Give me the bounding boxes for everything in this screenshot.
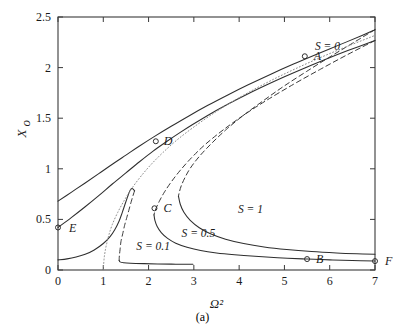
data-point-label: E (68, 221, 77, 235)
data-point-label: B (316, 252, 324, 266)
data-point-label: D (163, 134, 173, 148)
curve-label: S = 0 (315, 40, 340, 52)
chart-canvas: 01234567 00.511.522.5 ABCDEF S = 0.1S = … (0, 0, 405, 336)
curve-label: S = 1 (238, 203, 263, 215)
x-tick-label: 3 (191, 274, 197, 288)
data-point-label: F (384, 254, 393, 268)
x-tick-label: 1 (100, 274, 106, 288)
y-tick-label: 1 (45, 162, 51, 176)
figure-caption: (a) (0, 310, 405, 325)
y-axis-label-subscript: o (18, 120, 33, 127)
y-tick-label: 0.5 (36, 212, 51, 226)
x-axis-label: Ω² (210, 296, 224, 311)
figure-container: 01234567 00.511.522.5 ABCDEF S = 0.1S = … (0, 0, 405, 336)
y-tick-label: 0 (45, 263, 51, 277)
x-axis-title: Ω² (210, 296, 224, 311)
x-tick-label: 4 (236, 274, 242, 288)
y-tick-label: 2 (45, 61, 51, 75)
data-point-label: C (163, 201, 172, 215)
x-tick-label: 5 (281, 274, 287, 288)
x-tick-label: 0 (55, 274, 61, 288)
x-tick-label: 6 (327, 274, 333, 288)
y-tick-label: 2.5 (36, 10, 51, 24)
curve-label: S = 0.1 (136, 240, 170, 252)
y-tick-label: 1.5 (36, 111, 51, 125)
curve-label: S = 0.5 (182, 227, 216, 239)
y-axis-label: X (14, 128, 29, 138)
x-tick-label: 7 (372, 274, 378, 288)
x-tick-label: 2 (146, 274, 152, 288)
